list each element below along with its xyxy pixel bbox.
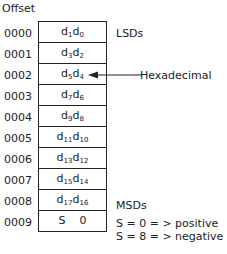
memory-cell: d1d0 <box>38 21 107 42</box>
memory-cell: d17d16 <box>38 189 107 210</box>
offset-label: 0000 <box>4 27 32 40</box>
memory-cell: d13d12 <box>38 147 107 168</box>
offset-label: 0001 <box>4 48 32 61</box>
sign-cell: S 0 <box>38 210 107 232</box>
offset-label: 0007 <box>4 174 32 187</box>
negative-note: S = 8 = > negative <box>116 230 223 243</box>
memory-cell: d9d8 <box>38 105 107 126</box>
offset-label: 0003 <box>4 90 32 103</box>
memory-cell: d7d6 <box>38 84 107 105</box>
memory-cell: d3d2 <box>38 42 107 63</box>
offset-label: 0009 <box>4 216 32 229</box>
offset-label: 0005 <box>4 132 32 145</box>
lsd-label: LSDs <box>116 27 143 40</box>
msd-label: MSDs <box>116 199 147 212</box>
offset-header: Offset <box>2 2 35 15</box>
offset-label: 0006 <box>4 153 32 166</box>
offset-label: 0004 <box>4 111 32 124</box>
offset-label: 0002 <box>4 69 32 82</box>
arrow-left-icon <box>88 70 142 80</box>
memory-cell: d11d10 <box>38 126 107 147</box>
offset-label: 0008 <box>4 195 32 208</box>
hex-label: Hexadecimal <box>140 69 211 82</box>
memory-cell: d15d14 <box>38 168 107 189</box>
positive-note: S = 0 = > positive <box>116 217 218 230</box>
